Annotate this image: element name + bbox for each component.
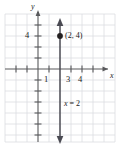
line-equation-value: 2 — [76, 99, 80, 108]
graph-svg — [0, 0, 121, 148]
point-label: (2, 4) — [65, 32, 82, 40]
y-tick-label-4: 4 — [25, 31, 29, 40]
y-axis — [36, 10, 41, 142]
x-tick-label-4: 4 — [78, 75, 82, 84]
x-tick-label-1: 1 — [44, 75, 48, 84]
line-equation-operator: = — [68, 99, 77, 108]
x-tick-label-3: 3 — [66, 75, 70, 84]
x-axis-label: x — [110, 72, 114, 80]
y-axis-label: y — [31, 3, 35, 11]
line-equation-label: x = 2 — [64, 100, 80, 108]
coordinate-plane-figure: y x 4 1 3 4 (2, 4) x = 2 — [0, 0, 121, 148]
plotted-point — [57, 33, 63, 39]
